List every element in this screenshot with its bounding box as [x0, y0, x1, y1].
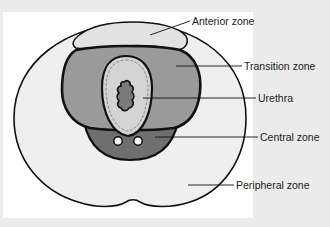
label-urethra: Urethra	[258, 92, 293, 104]
label-anterior-zone: Anterior zone	[192, 15, 255, 27]
label-peripheral-zone: Peripheral zone	[236, 179, 310, 191]
label-central-zone: Central zone	[260, 131, 320, 143]
duct-circle-right	[134, 137, 142, 145]
duct-circle-left	[114, 137, 122, 145]
label-transition-zone: Transition zone	[244, 60, 316, 72]
prostate-zones-diagram: Anterior zone Transition zone Urethra Ce…	[0, 0, 330, 227]
